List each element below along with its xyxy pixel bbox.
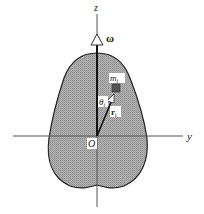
y-axis-label: y	[186, 130, 192, 142]
mass-element-square	[112, 84, 120, 92]
rigid-body-diagram: y z ω mi θi ri O	[0, 0, 204, 214]
angular-velocity-arrow-icon	[91, 34, 103, 45]
omega-label: ω	[106, 32, 114, 44]
z-axis-label: z	[93, 2, 98, 13]
origin-label: O	[88, 138, 95, 149]
